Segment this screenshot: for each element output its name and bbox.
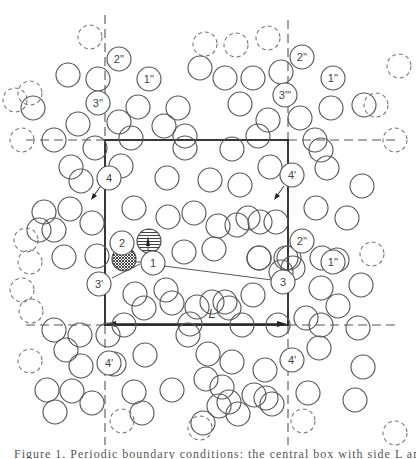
image-particle [224,33,248,57]
particle-label: 4 [106,172,112,184]
particle [350,174,374,198]
particle [43,400,67,424]
particle [96,323,120,347]
particle-label: 2'' [297,51,307,63]
particle-label: 2 [119,237,125,249]
particle [123,282,147,306]
box-length-arrow: L [106,306,287,328]
particle [228,92,252,116]
particle [264,210,288,234]
particle [27,218,51,242]
particle [304,196,328,220]
particle [346,316,370,340]
particles [21,56,376,435]
particle [68,323,92,347]
particle [107,110,131,134]
particle [185,295,209,319]
particle [83,136,107,160]
particle [196,342,220,366]
particle-label: 1'' [144,73,154,85]
particle [207,394,231,418]
particle-label: 4' [288,169,296,181]
particle [236,206,260,230]
image-particle [18,250,42,274]
particle [66,112,90,136]
particle [80,211,104,235]
particle [349,273,373,297]
particle [160,291,184,315]
image-particle [18,81,42,105]
particle [56,63,80,87]
image-particle [19,299,43,323]
image-particle [193,32,217,56]
particle [166,96,190,120]
particle-label: 3''' [279,89,291,101]
particle [119,126,143,150]
particle [58,197,82,221]
particle [220,350,244,374]
image-particle [10,278,34,302]
particle [225,213,249,237]
particle [335,206,359,230]
particle-label: 4' [288,354,296,366]
particle [132,296,156,320]
particle [202,237,226,261]
particle [122,196,146,220]
image-particle [387,54,411,78]
particle [54,338,78,362]
particle [152,114,176,138]
particle [194,367,218,391]
particle [296,381,320,405]
particle [217,296,241,320]
particle [241,66,265,90]
particle [198,168,222,192]
particle [32,200,56,224]
particle [309,276,333,300]
particle [160,378,184,402]
particle-label: 3' [95,278,103,290]
particle [246,124,270,148]
particle [294,306,318,330]
particle [188,56,212,80]
particle [42,218,66,242]
particle [343,388,367,412]
particle [182,201,206,225]
particle [315,156,339,180]
particle [248,210,272,234]
particle [213,66,237,90]
particle [35,378,59,402]
figure-caption: Figure 1. Periodic boundary conditions: … [14,447,414,459]
particle-label: 1'' [328,256,338,268]
particle [241,283,265,307]
image-particle [383,421,407,445]
particle [307,336,331,360]
particle [351,355,375,379]
particle [172,240,196,264]
particle-label: 3 [280,276,286,288]
particle [326,294,350,318]
image-particle [256,26,280,50]
particle-label: 1 [150,257,156,269]
image-particle [18,349,42,373]
particle-label: 1'' [328,72,338,84]
image-particle [110,409,134,433]
particle [133,343,157,367]
particle [86,67,110,91]
particle [176,323,200,347]
particle [206,214,230,238]
particle-label: 2'' [114,53,124,65]
particle [253,358,277,382]
image-particle [14,228,38,252]
particle [52,245,76,269]
particle [228,173,252,197]
particle [154,278,178,302]
periodic-boundary-diagram: L 1233'44'4'4'1''2''3''1''2''3'''2''1'' [0,0,416,459]
particle [155,166,179,190]
particle-label: 3'' [93,97,103,109]
particle-label: 2'' [297,235,307,247]
image-particle [291,409,315,433]
particle [80,391,104,415]
particle [247,246,271,270]
particle [156,205,180,229]
particle [256,108,280,132]
